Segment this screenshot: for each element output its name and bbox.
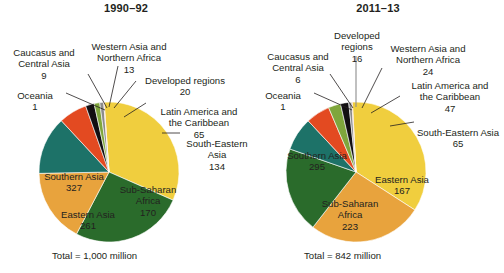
chart-panel-2011-13: 2011–13 Caucasus and Central Asia 6 Ocea… <box>252 0 504 273</box>
label-southern-asia-right: Southern Asia 295 <box>274 139 360 184</box>
label-sub-saharan-africa-left: Sub-Saharan Africa 170 <box>110 173 186 229</box>
total-label-right: Total = 842 million <box>304 250 381 261</box>
label-oceania-right: Oceania 1 <box>256 79 310 124</box>
label-developed-regions-right: Developed regions 16 <box>326 19 388 75</box>
label-south-eastern-asia-right: South-Eastern Asia 65 <box>414 116 502 161</box>
chart-panel-1990-92: 1990–92 Caucasus and Central Asia 9 Ocea… <box>0 0 252 273</box>
label-eastern-asia-right: Eastern Asia 167 <box>364 163 440 208</box>
label-oceania-left: Oceania 1 <box>8 79 62 124</box>
label-south-eastern-asia-left: South-Eastern Asia 134 <box>180 127 254 183</box>
total-label-left: Total = 1,000 million <box>52 250 137 261</box>
